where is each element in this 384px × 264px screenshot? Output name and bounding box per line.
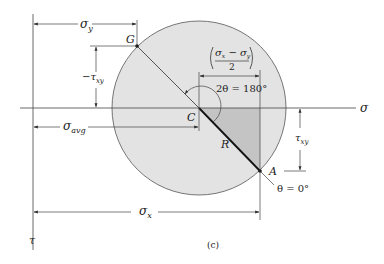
theta-A-label: θ = 0° — [277, 183, 309, 194]
radius-R-label: R — [220, 138, 229, 151]
sigma-avg-label: σavg — [63, 119, 86, 135]
sigma-y-label: σy — [80, 17, 93, 33]
point-G-label: G — [126, 33, 135, 46]
sigma-x-label: σx — [139, 204, 152, 220]
two-theta-label: 2θ = 180° — [216, 83, 267, 94]
sigma-axis-label: σ — [360, 101, 369, 115]
figure-caption: (c) — [207, 240, 219, 250]
center-C-label: C — [187, 111, 196, 124]
neg-tau-xy-label: −τxy — [82, 71, 105, 85]
tau-axis-label: τ — [29, 234, 36, 247]
tau-xy-label: τxy — [295, 132, 309, 146]
mohr-circle-diagram: σ τ σy −τxy σavg σx τxy σx − σy 2 2θ = 1… — [0, 0, 384, 264]
point-A-label: A — [268, 165, 277, 178]
svg-text:2: 2 — [229, 62, 235, 72]
